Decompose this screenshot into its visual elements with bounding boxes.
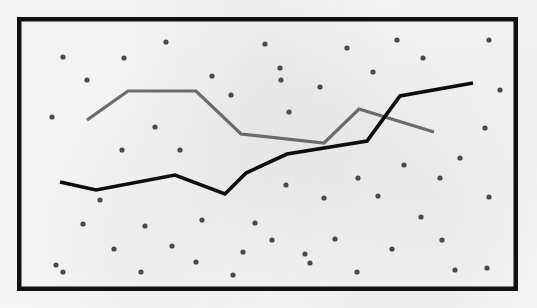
scatter-dot [80,221,85,226]
scatter-dot [497,87,502,92]
scatter-dot [484,265,489,270]
line-chart [0,0,537,308]
scatter-dot [111,246,116,251]
scatter-dot [60,54,65,59]
scatter-dot [193,259,198,264]
scatter-dot [84,77,89,82]
scatter-dot [240,249,245,254]
scatter-dot [437,175,442,180]
scatter-dot [283,182,288,187]
scatter-dot [269,237,274,242]
scatter-dot [332,236,337,241]
figure-canvas [0,0,537,308]
scatter-dot [486,37,491,42]
scatter-dot [370,69,375,74]
chart-background [0,0,537,308]
scatter-dot [344,45,349,50]
scatter-dot [278,77,283,82]
scatter-dot [252,220,257,225]
scatter-dot [53,262,58,267]
series-line-black-series [60,83,473,194]
scatter-dot [321,195,326,200]
scatter-dot [302,251,307,256]
scatter-dot [209,73,214,78]
scatter-dot [199,217,204,222]
scatter-dot [228,92,233,97]
scatter-dot [121,55,126,60]
scatter-dot [317,84,322,89]
scatter-dot [389,246,394,251]
scatter-dot [169,243,174,248]
scatter-dot [60,269,65,274]
scatter-dot [457,155,462,160]
scatter-dot [420,55,425,60]
scatter-dot [452,267,457,272]
scatter-dot [230,272,235,277]
scatter-dot [277,65,282,70]
scatter-dot [355,175,360,180]
scatter-dot [401,162,406,167]
scatter-dot [119,147,124,152]
scatter-dot [482,125,487,130]
scatter-dot [286,109,291,114]
scatter-dot [138,269,143,274]
scatter-dot [142,223,147,228]
scatter-dot [152,124,157,129]
scatter-dot [439,237,444,242]
scatter-dot [394,37,399,42]
scatter-dot [307,260,312,265]
scatter-dot [375,193,380,198]
scatter-dot [177,147,182,152]
chart-frame-border [19,19,516,289]
scatter-dot [418,214,423,219]
scatter-dot [354,269,359,274]
series-lines-group [60,83,473,194]
scatter-dot [49,114,54,119]
series-line-gray-series [87,91,434,143]
scatter-dot [262,41,267,46]
scatter-dot [163,39,168,44]
scatter-dot [486,194,491,199]
scatter-dot [97,197,102,202]
